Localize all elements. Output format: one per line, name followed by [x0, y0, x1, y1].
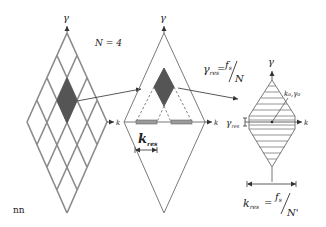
gamma-axis-label-right: γ	[268, 56, 274, 67]
k0-gamma0-label: k₀,γ₀	[284, 90, 300, 98]
svg-text:=: =	[264, 197, 272, 208]
diagram-canvas: γ k N = 4 γ	[0, 0, 326, 227]
single-cell-panel: γ k kres γres = fs N	[124, 12, 245, 213]
svg-text:N': N'	[286, 207, 299, 218]
k-axis-label-mid: k	[214, 119, 218, 127]
footnote-text: nn	[13, 205, 25, 215]
resolution-bar-left	[136, 120, 157, 124]
highlighted-cell	[57, 78, 77, 123]
n-equals-label: N = 4	[94, 38, 122, 48]
zoom-connector-2	[178, 88, 238, 99]
svg-text:N: N	[234, 73, 245, 84]
svg-text:fs: fs	[274, 191, 282, 203]
svg-text:fs: fs	[224, 59, 232, 71]
grid-diamond-panel: γ k N = 4	[27, 12, 141, 213]
gamma-axis-label: γ	[63, 12, 69, 23]
resolution-bar-right	[171, 120, 192, 124]
k-axis-label-right: k	[304, 119, 308, 127]
inner-dark-cell	[154, 68, 174, 106]
gamma-res-formula: γres = fs N	[203, 59, 245, 84]
diagram-svg: γ k N = 4 γ	[0, 0, 326, 227]
k-res-formula: kres = fs N'	[243, 191, 299, 218]
svg-text:kres: kres	[243, 197, 259, 210]
zoom-connector-1	[77, 89, 141, 101]
gamma-axis-label-mid: γ	[160, 12, 166, 23]
gamma-res-side-label: γres	[226, 118, 240, 129]
k-axis-label-left: k	[116, 119, 120, 127]
k-res-label: kres	[138, 131, 158, 147]
